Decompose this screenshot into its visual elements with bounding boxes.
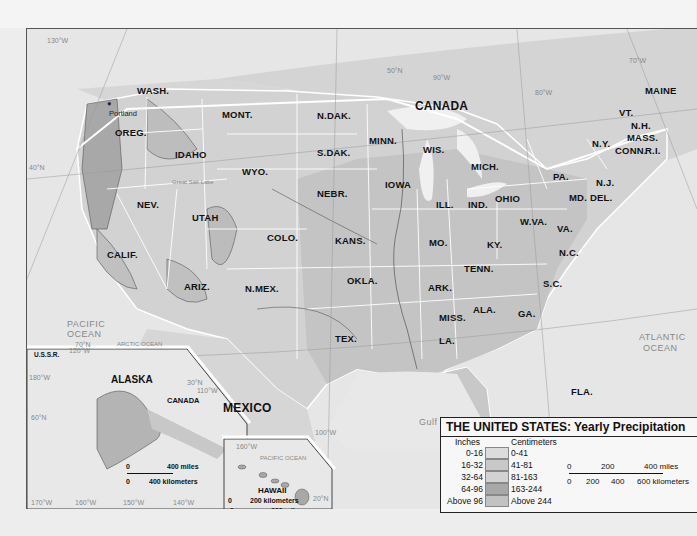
legend-swatch-3: [485, 483, 509, 495]
state-label-nmex: N.MEX.: [245, 283, 279, 294]
legend-inches-4: Above 96: [447, 496, 483, 506]
inset-grid-160w-hi: 160°W: [236, 443, 257, 450]
inset-grid-160w: 160°W: [75, 499, 96, 506]
state-label-nc: N.C.: [559, 247, 579, 258]
legend-cm-4: Above 244: [511, 496, 552, 506]
ocean-label-atlantic-line2: OCEAN: [639, 343, 686, 354]
inset-label-arctic-ocean: ARCTIC OCEAN: [117, 341, 162, 347]
ocean-label-pacific-line2: OCEAN: [67, 329, 105, 339]
legend-inches-2: 32-64: [461, 472, 483, 482]
map-title: THE UNITED STATES: Yearly Precipitation: [441, 418, 697, 437]
state-label-nebr: NEBR.: [317, 188, 348, 199]
ocean-label-pacific-line1: PACIFIC: [67, 319, 105, 329]
hawaii-scale-miles: 200 miles: [271, 507, 303, 509]
legend-cm-1: 41-81: [511, 460, 533, 470]
scale-miles-0: 0: [567, 462, 571, 471]
state-label-colo: COLO.: [267, 232, 298, 243]
state-label-conn: CONN.: [615, 145, 647, 156]
grid-label-30n: 30°N: [187, 379, 203, 386]
grid-label-110w: 110°W: [197, 387, 218, 394]
state-label-idaho: IDAHO: [175, 149, 207, 160]
state-label-pa: PA.: [553, 171, 569, 182]
legend-swatch-1: [485, 459, 509, 471]
legend-inches-3: 64-96: [461, 484, 483, 494]
grid-label-130w: 130°W: [47, 37, 68, 44]
state-label-kans: KANS.: [335, 235, 366, 246]
state-label-vt: VT.: [619, 107, 633, 118]
state-label-sc: S.C.: [543, 278, 562, 289]
city-marker-portland: ●: [107, 99, 112, 108]
state-label-utah: UTAH: [192, 212, 218, 223]
state-label-ny: N.Y.: [592, 138, 610, 149]
legend-box: THE UNITED STATES: Yearly Precipitation …: [440, 417, 697, 513]
hawaii-scale-zero-mi: 0: [230, 507, 234, 509]
page-margin-top: [0, 0, 696, 28]
state-label-calif: CALIF.: [107, 249, 138, 260]
scale-km-0: 0: [567, 477, 571, 486]
inset-label-canada: CANADA: [167, 396, 200, 405]
legend-swatch-4: [485, 495, 509, 507]
inset-label-ussr: U.S.S.R.: [34, 351, 59, 358]
hawaii-scale-km: 200 kilometers: [250, 497, 299, 504]
grid-label-70w: 70°W: [629, 57, 646, 64]
inset-label-hawaii: HAWAII: [258, 486, 286, 495]
state-label-md: MD.: [569, 192, 587, 203]
hawaii-scale-zero-km: 0: [228, 497, 232, 504]
legend-cm-0: 0-41: [511, 448, 528, 458]
state-label-wyo: WYO.: [242, 166, 268, 177]
alaska-scale-bar: [127, 473, 173, 474]
state-label-del: DEL.: [590, 192, 612, 203]
legend-inches-1: 16-32: [461, 460, 483, 470]
state-label-wva: W.VA.: [520, 216, 547, 227]
scale-miles-400: 400 miles: [644, 462, 678, 471]
state-label-ala: ALA.: [473, 304, 496, 315]
state-label-ga: GA.: [518, 308, 536, 319]
alaska-scale-zero-mi: 0: [126, 463, 130, 470]
state-label-ark: ARK.: [428, 282, 452, 293]
ocean-label-atlantic: ATLANTIC OCEAN: [639, 332, 686, 354]
scale-km-600: 600 kilometers: [637, 477, 689, 486]
scale-km-200: 200: [586, 477, 599, 486]
scale-km-400: 400: [611, 477, 624, 486]
inset-grid-20n: 20°N: [313, 495, 329, 502]
state-label-ariz: ARIZ.: [184, 281, 210, 292]
country-label-mexico: MEXICO: [223, 401, 272, 415]
grid-label-100w: 100°W: [315, 429, 336, 436]
inset-grid-60n: 60°N: [31, 414, 47, 421]
country-label-canada: CANADA: [415, 99, 468, 113]
state-label-va: VA.: [557, 223, 573, 234]
state-label-maine: MAINE: [645, 85, 677, 96]
grid-label-80w: 80°W: [535, 89, 552, 96]
inset-grid-180w: 180°W: [29, 374, 50, 381]
inset-label-pacific-ocean: PACIFIC OCEAN: [260, 455, 306, 461]
state-label-wis: WIS.: [423, 144, 444, 155]
state-label-iowa: IOWA: [385, 179, 411, 190]
state-label-okla: OKLA.: [347, 275, 378, 286]
state-label-minn: MINN.: [369, 135, 397, 146]
state-label-la: LA.: [439, 335, 455, 346]
state-label-ndak: N.DAK.: [317, 110, 351, 121]
state-label-tex: TEX.: [335, 333, 357, 344]
grid-label-90w: 90°W: [433, 74, 450, 81]
inset-grid-70n: 70°N: [75, 341, 91, 348]
inset-grid-150w: 150°W: [123, 499, 144, 506]
state-label-sdak: S.DAK.: [317, 147, 350, 158]
alaska-scale-zero-km: 0: [126, 478, 130, 485]
state-label-mont: MONT.: [222, 109, 253, 120]
inset-label-alaska: ALASKA: [111, 374, 153, 385]
legend-swatch-0: [485, 447, 509, 459]
legend-inches-0: 0-16: [466, 448, 483, 458]
state-label-mo: MO.: [429, 237, 448, 248]
legend-cm-header: Centimeters: [511, 437, 557, 447]
state-label-nj: N.J.: [596, 177, 614, 188]
state-label-ri: R.I.: [645, 145, 661, 156]
alaska-scale-miles: 400 miles: [167, 463, 199, 470]
state-label-miss: MISS.: [439, 312, 466, 323]
city-label-great-salt-lake: Great Salt Lake: [172, 179, 214, 185]
scale-miles-200: 200: [601, 462, 614, 471]
grid-label-120w: 120°W: [69, 347, 90, 354]
state-label-wash: WASH.: [137, 85, 169, 96]
ocean-label-pacific: PACIFIC OCEAN: [67, 319, 105, 339]
state-label-nh: N.H.: [631, 120, 651, 131]
state-label-fla: FLA.: [571, 386, 593, 397]
